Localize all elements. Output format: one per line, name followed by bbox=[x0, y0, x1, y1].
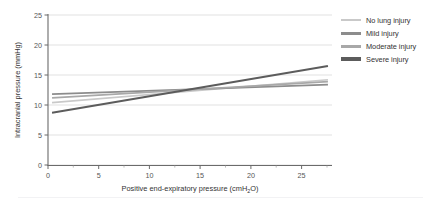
legend-swatch-severe-injury bbox=[341, 57, 361, 60]
legend-item-severe-injury[interactable]: Severe injury bbox=[341, 53, 441, 65]
legend-swatch-moderate-injury bbox=[341, 45, 361, 48]
footer-divider bbox=[18, 197, 423, 198]
x-axis-title-tail: O) bbox=[250, 184, 258, 193]
y-tick-labels: 0 5 10 15 20 25 bbox=[34, 11, 42, 170]
legend-swatch-no-lung-injury bbox=[341, 19, 361, 21]
x-tick-label: 20 bbox=[247, 171, 255, 180]
chart-legend: No lung injury Mild injury Moderate inju… bbox=[341, 14, 441, 66]
y-tick-label: 20 bbox=[34, 41, 42, 50]
x-tick-labels: 0 5 10 15 20 25 bbox=[46, 171, 306, 180]
x-tick-label: 25 bbox=[298, 171, 306, 180]
legend-label: No lung injury bbox=[366, 16, 411, 25]
legend-item-mild-injury[interactable]: Mild injury bbox=[341, 27, 441, 39]
legend-item-no-lung-injury[interactable]: No lung injury bbox=[341, 14, 441, 26]
legend-swatch-mild-injury bbox=[341, 32, 361, 35]
legend-label: Moderate injury bbox=[366, 42, 416, 51]
x-axis-title: Positive end-expiratory pressure (cmH2O) bbox=[122, 184, 259, 194]
y-axis-title: Intracranial pressure (mmHg) bbox=[13, 42, 22, 138]
x-tick-label: 15 bbox=[196, 171, 204, 180]
series-group bbox=[52, 66, 328, 113]
x-axis-title-main: Positive end-expiratory pressure (cmH bbox=[122, 184, 248, 193]
x-tick-label: 0 bbox=[46, 171, 50, 180]
legend-item-moderate-injury[interactable]: Moderate injury bbox=[341, 40, 441, 52]
legend-label: Mild injury bbox=[366, 29, 399, 38]
legend-label: Severe injury bbox=[366, 55, 408, 64]
y-tick-label: 0 bbox=[38, 161, 42, 170]
chart-figure: 0 5 10 15 20 25 0 5 10 15 20 25 Positive… bbox=[0, 0, 441, 209]
x-tick-label: 5 bbox=[97, 171, 101, 180]
y-tick-label: 10 bbox=[34, 101, 42, 110]
series-line-severe-injury bbox=[52, 66, 328, 113]
y-tick-label: 15 bbox=[34, 71, 42, 80]
y-tick-label: 25 bbox=[34, 11, 42, 20]
y-tick-label: 5 bbox=[38, 131, 42, 140]
x-tick-label: 10 bbox=[145, 171, 153, 180]
